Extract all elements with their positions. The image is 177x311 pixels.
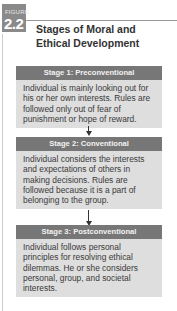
stage-1-box: Stage 1: Preconventional Individual is m…: [16, 66, 162, 128]
stage-3-box: Stage 3: Postconventional Individual fol…: [16, 225, 162, 297]
figure-badge: FIGURE 2.2: [2, 4, 26, 32]
figure-number: 2.2: [4, 15, 23, 32]
stage-2-heading: Stage 2: Conventional: [16, 137, 162, 151]
stage-2-description: Individual considers the interests and e…: [16, 151, 162, 209]
title-rule: [26, 20, 177, 21]
stage-1-description: Individual is mainly looking out for his…: [16, 80, 162, 128]
figure-title: Stages of Moral and Ethical Development: [36, 22, 171, 50]
stage-2-box: Stage 2: Conventional Individual conside…: [16, 137, 162, 209]
left-border-line: [2, 34, 3, 311]
stage-3-description: Individual follows personal principles f…: [16, 239, 162, 297]
stage-1-heading: Stage 1: Preconventional: [16, 66, 162, 80]
stage-3-heading: Stage 3: Postconventional: [16, 225, 162, 239]
arrow-down-icon: [86, 131, 92, 136]
